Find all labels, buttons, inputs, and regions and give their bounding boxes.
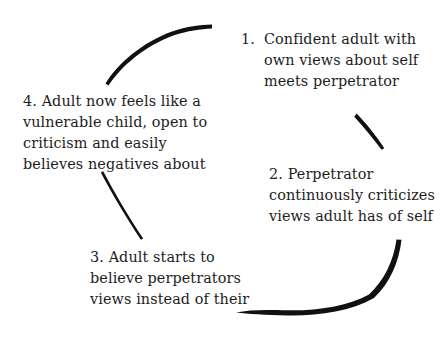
diagram-canvas: 1. Confident adult with own views about … xyxy=(0,0,443,339)
cycle-step-2-number: 2. xyxy=(269,166,283,182)
arc-left-lower-icon xyxy=(101,171,143,240)
cycle-step-3-number: 3. xyxy=(90,249,104,265)
cycle-step-3: 3. Adult starts to believe perpetrators … xyxy=(90,247,270,310)
cycle-step-1-number: 1. xyxy=(241,29,264,50)
cycle-step-4-number: 4. xyxy=(23,93,37,109)
arc-top-left-icon xyxy=(106,25,213,86)
cycle-step-2: 2. Perpetrator continuously criticizes v… xyxy=(269,164,443,227)
arc-right-upper-icon xyxy=(354,114,384,150)
cycle-step-4: 4. Adult now feels like a vulnerable chi… xyxy=(23,91,218,175)
cycle-step-1-text: Confident adult with own views about sel… xyxy=(264,29,431,92)
cycle-step-1: 1. Confident adult with own views about … xyxy=(241,29,431,92)
cycle-step-4-text: Adult now feels like a vulnerable child,… xyxy=(23,93,207,172)
cycle-step-2-text: Perpetrator continuously criticizes view… xyxy=(269,166,435,224)
cycle-step-3-text: Adult starts to believe perpetrators vie… xyxy=(90,249,249,307)
